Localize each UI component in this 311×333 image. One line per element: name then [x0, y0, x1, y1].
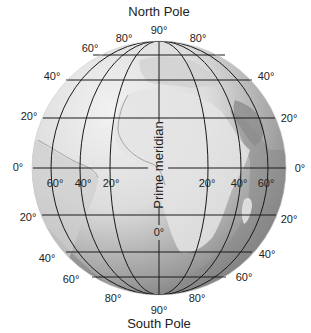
- lat-label-left-20s: 20°: [20, 211, 37, 223]
- lon-label-20w: 20°: [103, 177, 120, 189]
- lat-label-left-80s: 80°: [105, 292, 122, 304]
- lon-label-60w: 60°: [47, 177, 64, 189]
- lat-label-right-20n: 20°: [281, 112, 298, 124]
- south-pole-degree: 90°: [151, 304, 168, 316]
- lat-label-left-60n: 60°: [82, 42, 99, 54]
- prime-meridian-degree: 0°: [154, 226, 165, 238]
- lon-label-20e: 20°: [199, 177, 216, 189]
- lat-label-right-20s: 20°: [281, 213, 298, 225]
- lat-label-left-60s: 60°: [63, 273, 80, 285]
- lat-label-left-40s: 40°: [39, 252, 56, 264]
- globe-diagram: North Pole South Pole 90° 90° 80° 60° 40…: [0, 0, 311, 333]
- lat-label-left-equator: 0°: [13, 161, 24, 173]
- lat-label-right-80n: 80°: [190, 32, 207, 44]
- lat-label-right-equator: 0°: [295, 162, 306, 174]
- lon-label-40w: 40°: [75, 177, 92, 189]
- lat-label-right-40n: 40°: [258, 70, 275, 82]
- north-pole-title: North Pole: [128, 4, 189, 19]
- prime-meridian-label: Prime meridian: [151, 121, 166, 208]
- lon-label-40e: 40°: [231, 177, 248, 189]
- lat-label-right-60s: 60°: [236, 271, 253, 283]
- north-pole-degree: 90°: [151, 24, 168, 36]
- lat-label-right-80s: 80°: [189, 292, 206, 304]
- lat-label-right-40s: 40°: [259, 248, 276, 260]
- lat-label-left-20n: 20°: [21, 110, 38, 122]
- lat-label-left-40n: 40°: [44, 70, 61, 82]
- lon-label-60e: 60°: [258, 177, 275, 189]
- south-pole-title: South Pole: [127, 316, 191, 331]
- lat-label-left-80n: 80°: [116, 32, 133, 44]
